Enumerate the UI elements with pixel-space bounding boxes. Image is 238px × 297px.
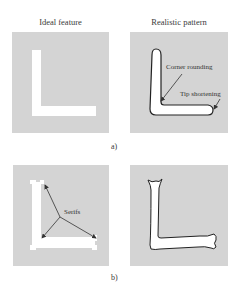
realistic-l-shape	[150, 49, 213, 115]
ideal-l-shape	[32, 50, 96, 116]
serif-arrow-corner	[42, 217, 60, 238]
corner-rounding-arrow	[161, 74, 182, 101]
serif-arrow-tip	[60, 217, 96, 238]
corner-rounding-label: Corner rounding	[166, 63, 213, 71]
flared-l-shape	[148, 179, 216, 250]
tip-shortening-label: Tip shortening	[180, 90, 221, 98]
serifs-label: Serifs	[64, 208, 81, 216]
caption-b: b)	[111, 273, 118, 282]
serif-arrow-top	[45, 185, 60, 217]
tip-shortening-arrow	[214, 99, 220, 109]
caption-a: a)	[111, 142, 117, 151]
diagram-graphics: Corner rounding Tip shortening Serifs	[0, 0, 238, 297]
